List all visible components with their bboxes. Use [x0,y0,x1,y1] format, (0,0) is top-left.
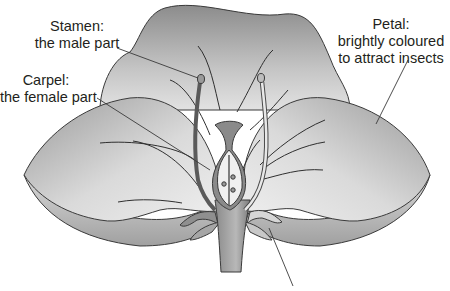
carpel [212,121,245,210]
stamen-label: Stamen: the male part [32,18,122,52]
ovule [231,188,235,192]
stamen-label-name: Stamen: [32,18,122,35]
stem [215,200,250,272]
carpel-label: Carpel: the female part [0,72,92,106]
ovule [231,175,235,179]
petal-label-line1: brightly coloured [332,33,450,50]
ovule [222,182,226,186]
carpel-label-name: Carpel: [0,72,92,89]
right-petal [240,98,430,221]
stamen-label-description: the male part [32,35,122,52]
carpel-label-description: the female part [0,89,92,106]
petal-label-name: Petal: [332,16,450,33]
petal-leader [376,60,408,124]
petal-label: Petal: brightly coloured to attract inse… [332,16,450,67]
petal-label-line2: to attract insects [332,50,450,67]
back-petal [100,5,350,110]
